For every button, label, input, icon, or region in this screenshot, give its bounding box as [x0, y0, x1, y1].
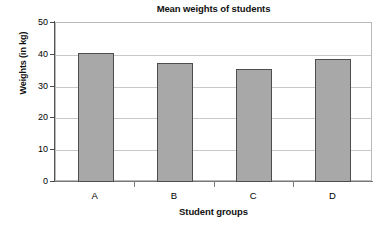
x-axis-tick-mark [214, 182, 215, 187]
y-axis-tick-mark [50, 149, 55, 150]
x-axis-title: Student groups [55, 206, 372, 217]
y-axis-tick-label: 0 [14, 177, 48, 186]
chart-title: Mean weights of students [55, 3, 372, 15]
bar-chart: Mean weights of students Weights (in kg)… [0, 0, 382, 225]
bar [236, 69, 272, 182]
bar [157, 63, 193, 182]
y-axis-tick-mark [50, 22, 55, 23]
x-axis-tick-mark [134, 182, 135, 187]
y-axis-tick-mark [50, 54, 55, 55]
x-axis-tick-label: A [65, 190, 125, 201]
y-axis-tick-label: 40 [14, 50, 48, 59]
y-axis-tick-label: 10 [14, 145, 48, 154]
plot-area [55, 22, 372, 181]
y-axis-tick-label: 30 [14, 82, 48, 91]
bar [315, 59, 351, 182]
y-axis-tick-mark [50, 86, 55, 87]
x-axis-tick-mark [293, 182, 294, 187]
y-axis-tick-mark [50, 181, 55, 182]
y-axis-tick-label: 50 [14, 18, 48, 27]
x-axis-tick-label: D [302, 190, 362, 201]
y-axis-tick-label: 20 [14, 113, 48, 122]
y-axis-tick-mark [50, 117, 55, 118]
bar [78, 53, 114, 182]
x-axis-tick-label: B [144, 190, 204, 201]
x-axis-tick-label: C [223, 190, 283, 201]
